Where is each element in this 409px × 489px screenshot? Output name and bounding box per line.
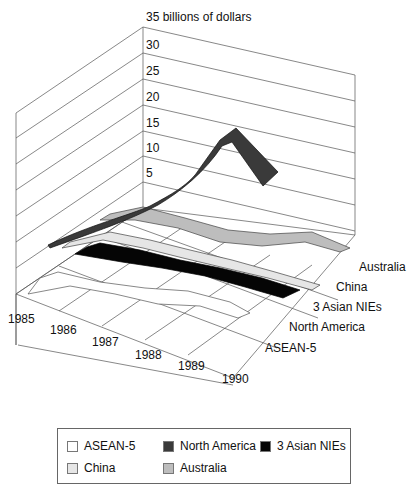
y-axis-title: 35 billions of dollars xyxy=(146,10,251,24)
legend-item-north-america: North America xyxy=(163,439,256,453)
x-tick-label: 1990 xyxy=(222,372,249,386)
legend-label: China xyxy=(84,461,115,475)
z-tick-label: China xyxy=(336,280,367,294)
legend-item-3-asian-nies: 3 Asian NIEs xyxy=(260,439,346,453)
y-tick-label: 25 xyxy=(146,64,159,78)
x-tick-label: 1988 xyxy=(135,348,162,362)
legend-swatch xyxy=(67,463,78,474)
y-tick-label: 15 xyxy=(146,116,159,130)
legend-swatch xyxy=(163,441,174,452)
x-tick-label: 1986 xyxy=(50,323,77,337)
legend-swatch xyxy=(163,463,174,474)
x-tick-label: 1987 xyxy=(92,335,119,349)
chart-3d-ribbon: 35 billions of dollars 30 25 20 15 10 5 … xyxy=(0,0,409,400)
y-tick-label: 5 xyxy=(146,166,153,180)
legend-item-china: China xyxy=(67,461,115,475)
x-tick-label: 1985 xyxy=(8,312,35,326)
z-tick-label: North America xyxy=(289,320,365,334)
y-tick-label: 20 xyxy=(146,90,159,104)
legend-swatch xyxy=(67,441,78,452)
series-north-america xyxy=(48,128,278,248)
legend-label: 3 Asian NIEs xyxy=(277,439,346,453)
z-tick-label: 3 Asian NIEs xyxy=(313,300,382,314)
z-tick-label: Australia xyxy=(359,260,406,274)
legend-item-asean-5: ASEAN-5 xyxy=(67,439,135,453)
chart-plot-area xyxy=(0,0,409,400)
legend-label: North America xyxy=(180,439,256,453)
legend-swatch xyxy=(260,441,271,452)
y-tick-label: 30 xyxy=(146,38,159,52)
z-tick-label: ASEAN-5 xyxy=(265,341,316,355)
chart-legend: ASEAN-5 North America 3 Asian NIEs China… xyxy=(57,428,351,484)
x-tick-label: 1989 xyxy=(178,359,205,373)
legend-label: ASEAN-5 xyxy=(84,439,135,453)
y-tick-label: 10 xyxy=(146,141,159,155)
legend-item-australia: Australia xyxy=(163,461,227,475)
legend-label: Australia xyxy=(180,461,227,475)
